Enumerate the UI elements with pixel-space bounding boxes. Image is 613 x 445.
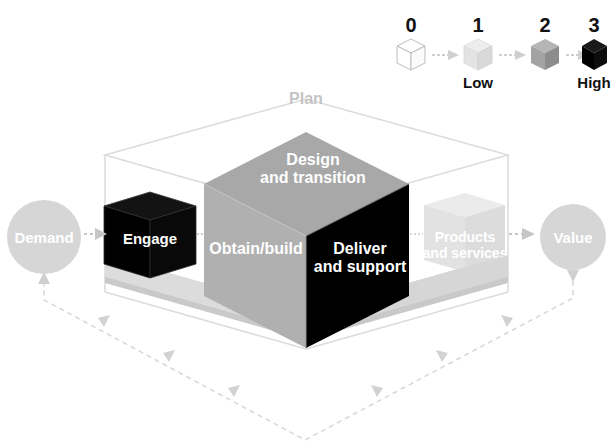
cube-label-design-line2: and transition [260, 169, 366, 186]
cube-label-deliver-line1: Deliver [333, 240, 386, 257]
node-label-value: Value [553, 229, 592, 246]
legend-caption-high: High [577, 74, 610, 91]
diagram-canvas: 0 1 Low 2 [0, 0, 613, 445]
legend-arrow-2-icon [499, 50, 526, 60]
legend-cube-0 [397, 39, 425, 70]
legend-number-2: 2 [539, 14, 550, 36]
feedback-arrowhead-right-3-icon [371, 385, 383, 397]
legend-arrow-1-icon [432, 50, 459, 60]
base-label-improve-front: Improve [277, 354, 335, 371]
feedback-arrowhead-left-1-icon [98, 315, 110, 327]
legend-cube-1 [464, 39, 492, 70]
cube-label-engage: Engage [123, 230, 177, 247]
legend-cube-3 [582, 39, 607, 70]
arrow-demand-to-engage-icon [84, 228, 107, 240]
legend-number-1: 1 [472, 14, 483, 36]
value-scale-legend: 0 1 Low 2 [397, 14, 611, 91]
cube-label-design-line1: Design [286, 151, 339, 168]
cube-label-products-line2: and services [423, 245, 508, 261]
feedback-arrowhead-from-value-icon [567, 270, 579, 282]
legend-caption-low: Low [463, 74, 493, 91]
service-value-system-diagram: 0 1 Low 2 [0, 0, 613, 445]
outer-box-label-plan: Plan [289, 90, 323, 107]
cube-label-deliver-line2: and support [314, 258, 407, 275]
legend-number-0: 0 [405, 14, 416, 36]
node-label-demand: Demand [14, 229, 73, 246]
feedback-arrowhead-left-3-icon [228, 385, 240, 397]
feedback-arrowhead-left-2-icon [163, 350, 175, 362]
legend-cube-2 [531, 39, 559, 70]
arrow-products-to-value-icon [509, 228, 535, 240]
feedback-arrowhead-right-2-icon [436, 350, 448, 362]
legend-number-3: 3 [588, 14, 599, 36]
feedback-arrowhead-into-demand-icon [38, 272, 50, 284]
cube-label-obtain-build: Obtain/build [209, 240, 302, 257]
cube-label-products-line1: Products [435, 229, 496, 245]
feedback-arrowhead-right-1-icon [501, 315, 513, 327]
